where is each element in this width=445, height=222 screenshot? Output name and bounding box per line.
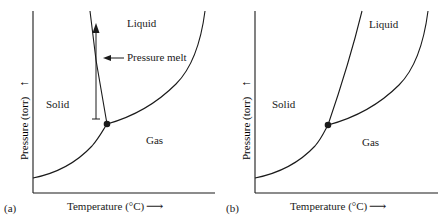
x-axis-label-a: Temperature (°C) bbox=[67, 201, 144, 212]
region-label-solid-b: Solid bbox=[272, 99, 295, 110]
sublimation-curve-b bbox=[255, 125, 328, 178]
y-axis-label-group-b: Pressure (torr) ↑ bbox=[236, 82, 254, 160]
pressure-melt-annotation-a: Pressure melt bbox=[127, 52, 187, 63]
panel-letter-b: (b) bbox=[226, 203, 239, 214]
x-axis-arrow-a: ⟶ bbox=[146, 200, 162, 212]
triple-point-marker-b bbox=[325, 122, 332, 129]
triple-point-marker-a bbox=[104, 121, 111, 128]
y-axis-label-group-a: Pressure (torr) ↑ bbox=[14, 82, 32, 160]
y-axis-arrow-a: ↑ bbox=[17, 82, 31, 87]
panel-letter-a: (a) bbox=[4, 203, 16, 214]
sublimation-curve-a bbox=[33, 124, 107, 178]
pressure-melt-arrowhead-up-a bbox=[93, 23, 100, 33]
phase-diagram-figure: Solid Liquid Gas Pressure melt Pressure … bbox=[0, 0, 445, 222]
region-label-solid-a: Solid bbox=[46, 99, 69, 110]
annotation-arrow-head-a bbox=[103, 55, 111, 61]
region-label-liquid-a: Liquid bbox=[127, 18, 156, 29]
region-label-liquid-b: Liquid bbox=[369, 19, 398, 30]
y-axis-label-b: Pressure (torr) bbox=[240, 97, 252, 160]
panel-a-plot bbox=[0, 0, 222, 222]
x-axis-label-b: Temperature (°C) bbox=[290, 201, 367, 212]
fusion-curve-a bbox=[90, 11, 107, 124]
region-label-gas-a: Gas bbox=[146, 135, 163, 146]
phase-diagram-panel-b: Solid Liquid Gas Pressure (torr) ↑ Tempe… bbox=[222, 0, 445, 222]
fusion-curve-b bbox=[328, 11, 362, 125]
y-axis-arrow-b: ↑ bbox=[239, 82, 253, 87]
y-axis-label-a: Pressure (torr) bbox=[18, 97, 30, 160]
x-axis-arrow-b: ⟶ bbox=[369, 200, 385, 212]
region-label-gas-b: Gas bbox=[362, 137, 379, 148]
phase-diagram-panel-a: Solid Liquid Gas Pressure melt Pressure … bbox=[0, 0, 222, 222]
panel-b-plot bbox=[222, 0, 445, 222]
